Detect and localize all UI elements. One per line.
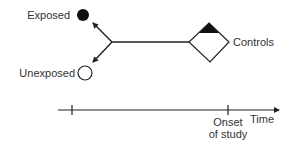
filled-circle-icon	[77, 9, 89, 21]
branch-arrows	[93, 23, 189, 62]
arrow-to-unexposed	[93, 42, 112, 62]
controls-label: Controls	[233, 36, 274, 48]
unexposed-node: Unexposed	[19, 66, 92, 80]
exposed-label: Exposed	[27, 9, 70, 21]
timeline: Time Onset of study	[58, 105, 279, 140]
controls-node: Controls	[189, 23, 274, 62]
exposed-node: Exposed	[27, 9, 89, 21]
onset-label-line2: of study	[209, 128, 248, 140]
open-circle-icon	[78, 66, 92, 80]
diamond-filled-top-icon	[199, 23, 219, 33]
time-label: Time	[250, 113, 274, 125]
arrow-to-exposed	[93, 23, 112, 42]
study-design-diagram: Exposed Unexposed Controls Time Onset of…	[0, 0, 300, 153]
unexposed-label: Unexposed	[19, 67, 75, 79]
onset-label-line1: Onset	[213, 116, 242, 128]
